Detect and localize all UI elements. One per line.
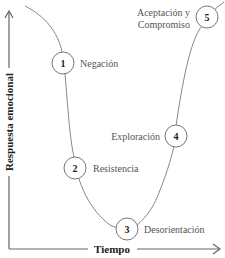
stage-2: 2 Resistencia — [64, 157, 139, 179]
stage-3-label: Desorientación — [144, 224, 205, 235]
y-axis-label: Respuesta emocional — [3, 73, 15, 171]
stage-1-number: 1 — [61, 58, 66, 69]
stage-2-label: Resistencia — [93, 163, 139, 174]
stage-2-number: 2 — [73, 163, 78, 174]
stage-5-number: 5 — [205, 12, 210, 23]
stage-3: 3 Desorientación — [116, 218, 205, 240]
stage-5: 5 Aceptación y Compromiso — [137, 6, 218, 30]
stage-3-number: 3 — [125, 224, 130, 235]
stage-4: 4 Exploración — [111, 125, 187, 147]
change-curve-diagram: Respuesta emocional Tiempo 1 Negación 2 … — [0, 0, 225, 258]
stage-5-label-line1: Aceptación y — [137, 7, 190, 18]
stage-1-label: Negación — [80, 58, 118, 69]
stage-4-label: Exploración — [111, 131, 160, 142]
stage-4-number: 4 — [174, 131, 179, 142]
stage-1: 1 Negación — [52, 52, 118, 74]
x-axis-label: Tiempo — [94, 243, 130, 255]
stage-5-label-line2: Compromiso — [138, 19, 190, 30]
emotional-curve — [25, 2, 224, 231]
